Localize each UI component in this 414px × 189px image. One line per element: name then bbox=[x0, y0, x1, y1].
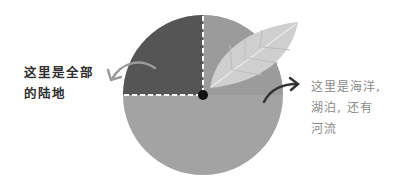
water-label-line-3: 河流 bbox=[311, 119, 381, 140]
center-dot bbox=[198, 90, 208, 100]
water-label: 这里是海洋, 湖泊, 还有 河流 bbox=[311, 77, 381, 140]
water-label-line-2: 湖泊, 还有 bbox=[311, 98, 381, 119]
land-label: 这里是全部 的陆地 bbox=[24, 62, 94, 104]
water-label-line-1: 这里是海洋, bbox=[311, 77, 381, 98]
land-region bbox=[123, 15, 203, 95]
land-label-line-1: 这里是全部 bbox=[24, 62, 94, 83]
land-label-line-2: 的陆地 bbox=[24, 83, 94, 104]
